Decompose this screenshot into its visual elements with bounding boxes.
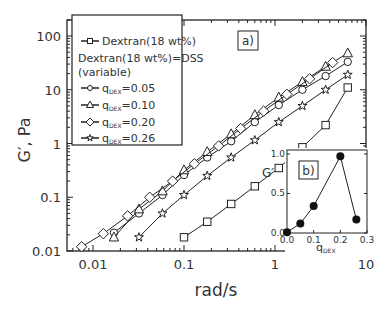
diamond-marker [327, 57, 337, 67]
inset-x-tick-label: 0.3 [360, 235, 374, 245]
y-axis-label: G′, Pa [15, 118, 34, 163]
legend-label: (variable) [78, 66, 131, 79]
legend-item: (variable) [78, 66, 131, 79]
y-tick-label: 0.01 [32, 244, 61, 259]
filled-circle-marker [336, 152, 344, 160]
square-marker [180, 234, 187, 241]
diamond-marker [98, 228, 108, 238]
legend-item: Dextran(18 wt%)=DSS [78, 52, 204, 65]
inset-y-tick-label: 0.5 [271, 188, 285, 198]
filled-circle-marker [310, 202, 318, 210]
inset-y-tick-label: 0.0 [271, 228, 286, 238]
circle-marker [322, 72, 329, 79]
panel-label-b: b) [302, 164, 314, 178]
diamond-marker [236, 123, 246, 133]
triangle-marker [343, 48, 352, 57]
x-axis-label: rad/s [195, 280, 238, 300]
diamond-marker [258, 106, 268, 116]
inset-y-tick-label: 1.0 [271, 149, 286, 159]
inset-y-label: G′ [262, 166, 274, 180]
chart-figure: 0.010.1110rad/s0.010.1110100G′, Paa)Dext… [0, 0, 390, 309]
filled-circle-marker [283, 228, 291, 236]
square-marker [275, 164, 282, 171]
square-marker [251, 183, 258, 190]
circle-marker [344, 58, 351, 65]
y-tick-label: 1 [53, 137, 61, 152]
y-tick-label: 0.1 [40, 190, 61, 205]
x-tick-label: 0.1 [174, 257, 195, 272]
diamond-marker [213, 141, 223, 151]
filled-circle-marker [296, 220, 304, 228]
legend: Dextran(18 wt%)Dextran(18 wt%)=DSS(varia… [72, 15, 204, 145]
square-marker [322, 121, 329, 128]
legend-label: Dextran(18 wt%)=DSS [78, 52, 204, 65]
circle-marker [299, 86, 306, 93]
x-tick-label: 0.01 [79, 257, 108, 272]
square-marker [88, 39, 93, 44]
y-tick-label: 100 [36, 29, 61, 44]
square-marker [344, 84, 351, 91]
circle-marker [88, 86, 93, 91]
inset-x-tick-label: 0.2 [333, 235, 347, 245]
x-tick-label: 10 [358, 257, 375, 272]
panel-label-a: a) [242, 34, 254, 48]
square-marker [204, 218, 211, 225]
x-tick-label: 1 [271, 257, 279, 272]
legend-label: Dextran(18 wt%) [102, 35, 196, 48]
y-tick-label: 10 [44, 83, 61, 98]
square-marker [227, 200, 234, 207]
diamond-marker [189, 159, 199, 169]
filled-circle-marker [352, 216, 360, 224]
triangle-marker [134, 204, 143, 213]
